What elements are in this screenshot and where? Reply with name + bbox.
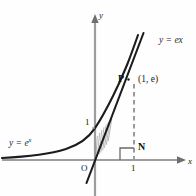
right-angle-marker: [120, 148, 134, 160]
y-axis-label: y: [99, 11, 103, 20]
exponential-curve-label-base: y = e: [9, 138, 29, 148]
tangent-line-label: y = ex: [159, 36, 183, 46]
tangency-point-label: P: [118, 74, 124, 84]
x-axis-label: x: [188, 157, 192, 166]
math-figure: y x O 1 1 y = ex y = ex P (1, e) N: [0, 0, 196, 196]
foot-of-perpendicular-label: N: [138, 142, 145, 152]
y-unit-tick-label: 1: [85, 118, 90, 127]
origin-label: O: [81, 164, 88, 173]
exponential-curve-label-exponent: x: [29, 136, 32, 143]
y-axis-arrow: [91, 14, 98, 23]
tangency-coordinates-label: (1, e): [138, 75, 158, 85]
x-axis-arrow: [177, 156, 186, 163]
exponential-curve-label: y = ex: [9, 137, 31, 149]
tangency-point-marker: [127, 78, 129, 80]
x-unit-tick-label: 1: [131, 164, 136, 173]
figure-canvas: [0, 0, 196, 196]
